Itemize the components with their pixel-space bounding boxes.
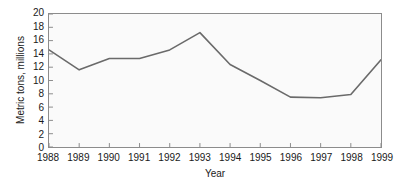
x-axis-tick-labels: 1988198919901991199219931994199519961997… — [48, 152, 382, 165]
line-chart: Metric tons, millions 02468101214161820 … — [0, 0, 402, 193]
axis-tick-marks — [49, 14, 381, 147]
data-series-line — [49, 33, 381, 98]
y-tick-label: 18 — [4, 22, 44, 32]
y-tick-label: 8 — [4, 89, 44, 99]
y-tick-label: 6 — [4, 103, 44, 113]
y-tick-label: 16 — [4, 35, 44, 45]
plot-area — [48, 13, 382, 148]
y-tick-label: 2 — [4, 130, 44, 140]
plot-canvas — [49, 14, 381, 147]
y-tick-label: 12 — [4, 62, 44, 72]
y-tick-label: 4 — [4, 116, 44, 126]
y-tick-label: 20 — [4, 8, 44, 18]
x-tick-label: 1999 — [362, 152, 402, 164]
x-axis-title: Year — [48, 168, 382, 180]
y-axis-tick-labels: 02468101214161820 — [0, 0, 44, 193]
y-tick-label: 10 — [4, 76, 44, 86]
y-tick-label: 14 — [4, 49, 44, 59]
